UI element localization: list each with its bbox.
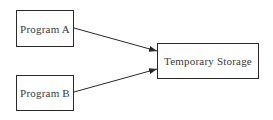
arrow-program-b-to-storage [74,69,157,92]
program-a-label: Program A [20,23,70,35]
arrow-program-a-to-storage [74,28,157,51]
program-a-node: Program A [16,10,74,47]
temporary-storage-label: Temporary Storage [164,55,252,67]
program-b-label: Program B [20,87,70,99]
program-b-node: Program B [16,75,74,111]
temporary-storage-node: Temporary Storage [157,43,259,79]
